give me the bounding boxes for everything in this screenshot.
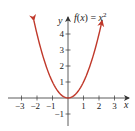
x-tick-label: 1	[81, 101, 86, 111]
function-label: f(x) = x2	[74, 11, 107, 24]
y-tick-label: −1	[54, 109, 64, 119]
x-tick-label: −2	[30, 101, 40, 111]
x-tick-label: 3	[112, 101, 117, 111]
y-tick-label: 2	[60, 61, 65, 71]
x-tick-label: −3	[15, 101, 25, 111]
y-tick-label: 3	[60, 45, 65, 55]
x-tick-label: 2	[97, 101, 102, 111]
x-axis-label: x	[123, 99, 129, 110]
parabola-chart: −3−2−1123 −11234 x y f(x) = x2	[0, 0, 135, 131]
y-tick-label: 1	[60, 77, 65, 87]
y-axis-label: y	[57, 15, 63, 26]
y-tick-label: 4	[60, 29, 65, 39]
